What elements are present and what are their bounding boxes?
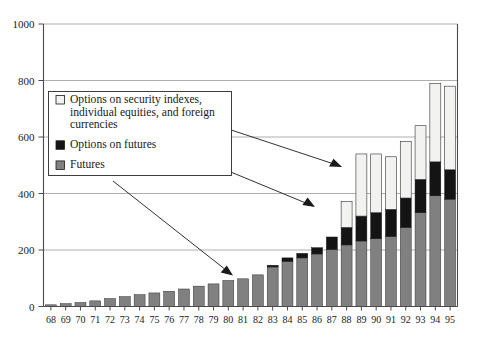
x-tick-label-77: 77 [179,314,189,325]
y-tick-label-400: 400 [18,188,35,200]
x-tick-label-80: 80 [223,314,233,325]
x-tick-label-70: 70 [75,314,85,325]
x-tick-label-69: 69 [61,314,71,325]
x-tick-label-73: 73 [120,314,130,325]
bar-segment-82-0 [252,275,263,307]
bar-segment-87-0 [326,249,337,306]
x-tick-label-85: 85 [297,314,307,325]
y-tick-label-1000: 1000 [13,18,36,30]
bar-segment-89-1 [356,216,367,241]
stacked-bar-chart: 02004006008001000 6869707172737475767778… [0,0,480,337]
arrow-to-futures-line [113,181,231,274]
x-tick-label-76: 76 [164,314,174,325]
x-tick-label-83: 83 [268,314,278,325]
x-tick-label-78: 78 [194,314,204,325]
bar-segment-86-0 [312,254,323,307]
chart-legend: Options on security indexes,individual e… [49,92,232,176]
x-tick-label-75: 75 [149,314,159,325]
legend-label-0-line-1: individual equities, and foreign [70,106,215,119]
bar-segment-90-2 [371,154,382,213]
x-tick-label-68: 68 [46,314,56,325]
bar-segment-91-2 [385,157,396,210]
bar-segment-91-0 [385,236,396,306]
bar-segment-89-2 [356,154,367,216]
bar-segment-95-0 [445,199,456,306]
bar-segment-95-1 [445,170,456,199]
bar-segment-76-0 [164,291,175,306]
bar-segment-70-0 [75,303,86,307]
legend-label-0-line-2: currencies [70,118,118,131]
x-tick-label-82: 82 [253,314,263,325]
bar-segment-83-0 [267,267,278,307]
bar-segment-80-0 [223,281,234,307]
black-square-swatch [56,141,65,150]
y-tick-label-800: 800 [18,75,35,87]
bar-segment-91-1 [385,209,396,236]
legend-label-2-line-0: Futures [70,158,105,171]
bar-segment-90-1 [371,213,382,239]
bar-segment-88-0 [341,245,352,307]
bar-segment-92-1 [400,198,411,227]
bar-segment-92-2 [400,142,411,199]
bar-segment-88-2 [341,201,352,227]
chart-container: 02004006008001000 6869707172737475767778… [0,0,480,337]
x-tick-label-72: 72 [105,314,115,325]
bar-segment-84-1 [282,258,293,261]
y-tick-label-0: 0 [29,301,35,313]
bar-segment-86-1 [312,248,323,254]
y-tick-label-600: 600 [18,131,35,143]
x-tick-label-79: 79 [209,314,219,325]
bar-segment-77-0 [178,289,189,307]
bar-segment-84-0 [282,261,293,306]
bar-segment-88-1 [341,227,352,245]
x-tick-label-87: 87 [327,314,337,325]
x-axis-ticks: 6869707172737475767778798081828384858687… [46,307,455,325]
bar-segment-74-0 [134,295,145,307]
legend-label-1-line-0: Options on futures [70,138,157,151]
bar-segment-94-2 [430,83,441,162]
bar-segment-75-0 [149,293,160,307]
x-tick-label-89: 89 [356,314,366,325]
x-tick-label-90: 90 [371,314,381,325]
bar-segment-83-1 [267,265,278,267]
bar-segment-94-1 [430,162,441,196]
bar-segment-94-0 [430,196,441,307]
legend-label-0-line-0: Options on security indexes, [70,93,202,106]
x-tick-label-93: 93 [416,314,426,325]
bar-segment-89-0 [356,241,367,307]
bar-segment-85-0 [297,258,308,307]
bar-segment-71-0 [90,301,101,307]
bar-segment-73-0 [119,297,130,307]
x-tick-label-71: 71 [90,314,100,325]
x-tick-label-95: 95 [445,314,455,325]
bar-segment-87-1 [326,237,337,249]
x-tick-label-88: 88 [342,314,352,325]
x-tick-label-81: 81 [238,314,248,325]
bar-segment-79-0 [208,284,219,307]
x-tick-label-84: 84 [282,314,292,325]
bar-segment-93-2 [415,126,426,180]
x-tick-label-91: 91 [386,314,396,325]
bar-segment-90-0 [371,239,382,307]
gray-square-swatch [56,161,65,170]
bar-segment-81-0 [238,279,249,307]
y-tick-label-200: 200 [18,244,35,256]
bar-segment-78-0 [193,286,204,306]
x-tick-label-94: 94 [430,314,440,325]
light-square-swatch [56,96,65,105]
y-axis-ticks: 02004006008001000 [13,18,44,313]
bar-segment-93-0 [415,213,426,307]
bar-segment-72-0 [105,299,116,307]
bar-segment-92-0 [400,227,411,306]
x-tick-label-86: 86 [312,314,322,325]
x-tick-label-92: 92 [401,314,411,325]
bar-segment-93-1 [415,179,426,212]
x-tick-label-74: 74 [135,314,145,325]
bar-segment-85-1 [297,253,308,258]
bar-segment-95-2 [445,86,456,170]
